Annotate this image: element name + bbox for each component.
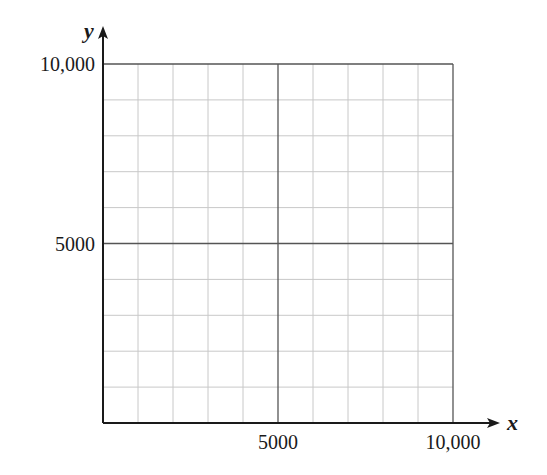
y-tick-label: 5000 <box>55 233 95 255</box>
x-tick-label: 10,000 <box>426 431 481 453</box>
coordinate-grid-chart: x y 500010,000 500010,000 <box>0 0 547 475</box>
y-tick-label: 10,000 <box>40 53 95 75</box>
axes <box>98 26 500 428</box>
x-tick-labels: 500010,000 <box>258 431 481 453</box>
y-axis-label: y <box>81 18 94 43</box>
major-grid <box>103 64 453 423</box>
x-tick-label: 5000 <box>258 431 298 453</box>
y-tick-labels: 500010,000 <box>40 53 95 255</box>
x-axis-label: x <box>506 410 518 435</box>
